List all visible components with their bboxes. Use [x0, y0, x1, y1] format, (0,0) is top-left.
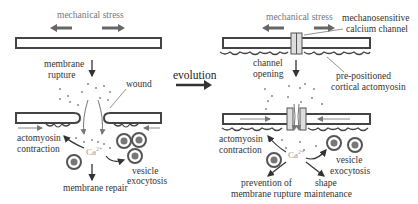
right-calcium-label: Ca2+ [288, 149, 305, 160]
evolution-label: evolution [173, 69, 217, 81]
right-actomyosin-icon [114, 124, 138, 127]
left-actomyosin-icon [46, 124, 70, 127]
right-vesicle-label-2: exocytosis [330, 166, 370, 176]
channel-label-2: calcium channel [346, 24, 408, 34]
right-actomyosin-left [222, 128, 282, 131]
r-ca-to-actomyosin-arrow [268, 136, 286, 152]
left-vesicles [67, 133, 146, 169]
wound-pointer [110, 89, 126, 108]
open-channel-left-icon [287, 108, 293, 130]
left-vesicle-label-2: exocytosis [127, 176, 167, 186]
prevention-label-2: membrane rupture [231, 189, 301, 199]
shape-label-2: maintenance [304, 189, 352, 199]
left-influx-arrow-icon [84, 100, 89, 134]
channel-label-1: mechanosensitive [342, 13, 410, 23]
right-actomyosin-label-2: contraction [219, 145, 262, 155]
evolution-transition: evolution [173, 69, 217, 90]
left-intact-membrane [16, 38, 161, 48]
to-shape-arrow [306, 162, 324, 176]
opening-label-2: opening [253, 69, 284, 79]
open-channel-right-icon [300, 108, 306, 130]
right-actomyosin-right [308, 128, 368, 131]
shape-label-1: shape [315, 178, 337, 188]
left-stress-label: mechanical stress [57, 10, 124, 20]
right-panel: mechanical stress mechanosensitive calci… [219, 12, 410, 199]
prevention-label-1: prevention of [241, 178, 293, 188]
cortical-pointer [327, 57, 344, 72]
left-stress-arrows-icon [50, 24, 125, 32]
r-ca-to-vesicle-arrow [306, 150, 326, 159]
left-rupture-label-1: membrane [44, 59, 84, 69]
left-actomyosin-label-2: contraction [17, 144, 60, 154]
channel-influx-arrow-left [294, 104, 295, 130]
right-actomyosin-label-1: actomyosin [219, 134, 263, 144]
cortical-label-1: pre-positioned [336, 71, 391, 81]
repair-label: membrane repair [63, 183, 128, 193]
left-vesicle-label-1: vesicle [132, 166, 158, 176]
right-stress-label: mechanical stress [266, 12, 333, 22]
right-stress-arrows-icon [262, 24, 335, 32]
left-calcium-label: Ca2+ [86, 146, 103, 157]
ca-to-vesicle-arrow [106, 156, 124, 161]
left-actomyosin-label-1: actomyosin [17, 133, 61, 143]
cortical-label-2: cortical actomyosin [331, 82, 406, 92]
left-broken-membrane-left [16, 113, 80, 123]
left-rupture-label-2: rupture [48, 70, 75, 80]
right-vesicle-label-1: vesicle [336, 155, 362, 165]
cortical-actomyosin-right [304, 52, 370, 55]
ca-to-actomyosin-arrow [64, 136, 84, 148]
channel-influx-arrow-right [298, 104, 299, 130]
cortical-actomyosin-left [220, 52, 288, 55]
left-broken-membrane-right [104, 113, 161, 123]
wound-label: wound [126, 79, 152, 89]
diagram: mechanical stress membrane rupture wound [0, 0, 418, 204]
left-panel: mechanical stress membrane rupture wound [16, 10, 167, 193]
channel-pointer [304, 29, 343, 35]
right-influx-arrow-icon [98, 100, 103, 134]
opening-label-1: channel [253, 58, 283, 68]
